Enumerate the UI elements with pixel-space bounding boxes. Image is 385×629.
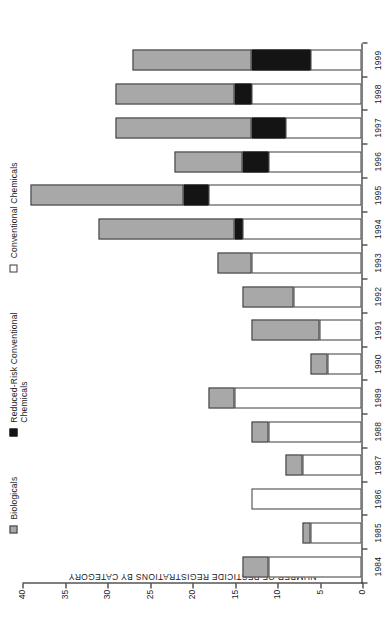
legend-item-biologicals: Biologicals [8, 476, 18, 533]
bar-segment-reduced-risk [251, 49, 311, 70]
bar-stack [30, 184, 362, 205]
value-tick [320, 583, 321, 588]
value-tick-label: 0 [356, 589, 366, 613]
value-tick-label: 10 [271, 589, 281, 613]
bar-segment-conventional [310, 49, 361, 70]
bar-segment-biologicals [98, 218, 234, 239]
value-tick-label: 25 [144, 589, 154, 613]
value-tick-label: 15 [229, 589, 239, 613]
category-tick [362, 76, 367, 77]
bar-segment-conventional [310, 522, 361, 543]
bar-segment-biologicals [302, 522, 311, 543]
bar-stack [242, 556, 361, 577]
bar-segment-conventional [268, 556, 362, 577]
legend-item-conventional: Conventional Chemicals [8, 162, 18, 272]
bar-segment-biologicals [285, 454, 302, 475]
category-tick [362, 177, 367, 178]
category-tick [362, 245, 367, 246]
bar-stack [115, 83, 362, 104]
category-tick [362, 481, 367, 482]
bar-stack [251, 488, 362, 509]
value-tick [192, 583, 193, 588]
bar-segment-reduced-risk [234, 83, 251, 104]
bar-segment-biologicals [132, 49, 251, 70]
bar-segment-reduced-risk [251, 117, 285, 138]
gray-swatch-icon [9, 525, 17, 533]
value-tick [107, 583, 108, 588]
category-tick [362, 110, 367, 111]
category-tick [362, 582, 367, 583]
bar-segment-conventional [319, 319, 362, 340]
category-tick [362, 346, 367, 347]
category-tick [362, 143, 367, 144]
bar-stack [208, 387, 361, 408]
bar-segment-conventional [251, 83, 362, 104]
category-tick [362, 312, 367, 313]
bar-stack [242, 286, 361, 307]
category-tick [362, 278, 367, 279]
category-tick [362, 413, 367, 414]
value-tick-label: 35 [59, 589, 69, 613]
bar-segment-biologicals [115, 117, 251, 138]
bar-stack [310, 353, 361, 374]
bar-segment-conventional [251, 488, 362, 509]
bar-segment-conventional [242, 218, 361, 239]
bar-stack [98, 218, 362, 239]
bar-segment-conventional [208, 184, 361, 205]
bar-stack [174, 151, 361, 172]
value-tick-label: 40 [16, 589, 26, 613]
value-tick [22, 583, 23, 588]
white-swatch-icon [9, 264, 17, 272]
plot-area: NUMBER OF PESTICIDE REGISTRATIONS BY CAT… [22, 43, 362, 583]
bar-segment-reduced-risk [242, 151, 268, 172]
value-tick-label: 20 [186, 589, 196, 613]
value-tick [362, 583, 363, 588]
bar-stack [217, 252, 362, 273]
legend-label-biologicals: Biologicals [8, 476, 18, 519]
bar-stack [251, 319, 362, 340]
bar-segment-biologicals [208, 387, 234, 408]
category-tick [362, 380, 367, 381]
bar-segment-reduced-risk [183, 184, 209, 205]
bar-segment-conventional [268, 151, 362, 172]
bar-segment-conventional [251, 252, 362, 273]
bar-stack [285, 454, 362, 475]
chart-canvas: Biologicals Reduced-Risk Conventional Ch… [0, 0, 385, 629]
bar-segment-biologicals [30, 184, 183, 205]
bar-stack [115, 117, 362, 138]
value-tick [277, 583, 278, 588]
category-label: 1999 [372, 40, 382, 80]
black-swatch-icon [9, 428, 17, 436]
value-tick [65, 583, 66, 588]
value-tick [150, 583, 151, 588]
category-tick [362, 447, 367, 448]
bar-segment-conventional [293, 286, 361, 307]
bar-segment-biologicals [251, 319, 319, 340]
legend-label-conventional: Conventional Chemicals [8, 162, 18, 258]
bar-stack [132, 49, 362, 70]
bar-segment-conventional [302, 454, 362, 475]
bar-segment-reduced-risk [234, 218, 243, 239]
category-tick [362, 211, 367, 212]
bar-segment-conventional [234, 387, 362, 408]
bar-segment-biologicals [310, 353, 327, 374]
bar-stack [251, 421, 362, 442]
category-tick [362, 515, 367, 516]
bar-segment-biologicals [251, 421, 268, 442]
category-tick [362, 42, 367, 43]
value-tick-label: 30 [101, 589, 111, 613]
bar-segment-biologicals [242, 286, 293, 307]
bar-segment-biologicals [242, 556, 268, 577]
value-tick-label: 5 [314, 589, 324, 613]
category-tick [362, 548, 367, 549]
bar-segment-biologicals [174, 151, 242, 172]
bar-segment-biologicals [217, 252, 251, 273]
value-tick [235, 583, 236, 588]
bar-stack [302, 522, 362, 543]
bar-segment-conventional [285, 117, 362, 138]
bar-segment-conventional [268, 421, 362, 442]
bar-segment-conventional [327, 353, 361, 374]
bar-segment-biologicals [115, 83, 234, 104]
